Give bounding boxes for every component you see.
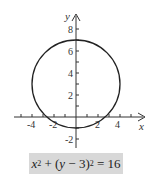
y-tick-label: 2 xyxy=(68,90,73,101)
equation-label: x2 + (y − 3)2 = 16 xyxy=(29,153,123,174)
x-tick-label: -4 xyxy=(27,119,35,130)
y-tick-label: 6 xyxy=(68,46,73,57)
y-axis-label: y xyxy=(64,10,70,22)
equation-rhs: = 16 xyxy=(94,156,121,172)
y-tick-label: 8 xyxy=(68,24,73,35)
y-tick-label: 4 xyxy=(68,68,73,79)
equation-minus: − 3) xyxy=(65,156,90,172)
y-tick-label: -2 xyxy=(65,134,73,145)
x-tick-label: -2 xyxy=(49,119,57,130)
x-axis-label: x xyxy=(138,120,144,132)
x-tick-label: 4 xyxy=(115,119,120,130)
graph: -4 -2 2 4 8 6 4 2 -2 x y xyxy=(0,0,153,178)
equation-plus: + ( xyxy=(41,156,59,172)
